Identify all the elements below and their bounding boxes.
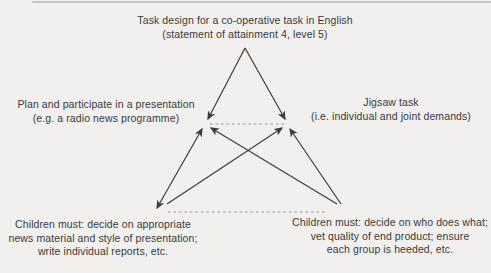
node-children-left-line2: news material and style of presentation; <box>3 232 203 246</box>
node-children-presentation-demands: Children must: decide on appropriate new… <box>3 218 203 259</box>
node-children-right-line2: vet quality of end product; ensure <box>290 230 490 244</box>
node-task-design-line2: (statement of attainment 4, level 5) <box>95 28 395 42</box>
node-children-left-line1: Children must: decide on appropriate <box>3 218 203 232</box>
node-presentation-task: Plan and participate in a presentation (… <box>6 98 206 125</box>
edge-childrenright-to-jigsaw <box>290 129 341 204</box>
node-task-design-line1: Task design for a co-operative task in E… <box>95 14 395 28</box>
node-children-right-line1: Children must: decide on who does what; <box>290 216 490 230</box>
node-jigsaw-line1: Jigsaw task <box>291 96 491 110</box>
node-children-jigsaw-demands: Children must: decide on who does what; … <box>290 216 490 257</box>
node-presentation-line2: (e.g. a radio news programme) <box>6 112 206 126</box>
edge-apex-to-jigsaw <box>245 48 285 119</box>
node-jigsaw-task: Jigsaw task (i.e. individual and joint d… <box>291 96 491 123</box>
edge-childrenleft-to-jigsaw <box>167 128 282 204</box>
node-children-left-line3: write individual reports, etc. <box>3 245 203 259</box>
edge-apex-to-presentation <box>208 48 245 119</box>
edge-childrenright-to-presentation <box>211 128 337 204</box>
node-task-design: Task design for a co-operative task in E… <box>95 14 395 41</box>
diagram-canvas: Task design for a co-operative task in E… <box>0 0 491 273</box>
node-children-right-line3: each group is heeded, etc. <box>290 243 490 257</box>
node-presentation-line1: Plan and participate in a presentation <box>6 98 206 112</box>
node-jigsaw-line2: (i.e. individual and joint demands) <box>291 110 491 124</box>
